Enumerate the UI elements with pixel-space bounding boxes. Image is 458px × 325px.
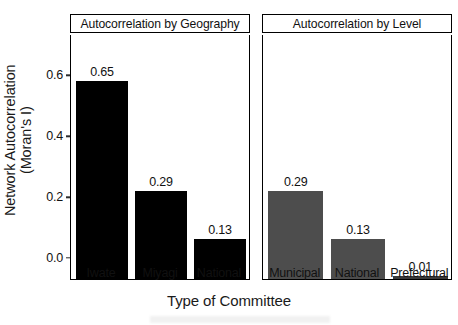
- plot-area-level: 0.290.130.01: [262, 35, 452, 280]
- chart-figure: Network Autocorrelation (Moran's I) 0.00…: [0, 0, 458, 325]
- y-axis-title: Network Autocorrelation (Moran's I): [0, 0, 36, 280]
- panel-level: Autocorrelation by Level 0.290.130.01: [262, 14, 452, 280]
- x-category-label: Municipal: [269, 266, 320, 280]
- y-axis: 0.00.20.40.6: [36, 0, 70, 325]
- panel-strip-geography: Autocorrelation by Geography: [70, 14, 250, 33]
- bar-value-label: 0.65: [90, 65, 114, 79]
- bar-value-label: 0.13: [208, 223, 232, 237]
- panel-strip-label-geography: Autocorrelation by Geography: [80, 17, 239, 31]
- panel-geography: Autocorrelation by Geography 0.650.290.1…: [70, 14, 250, 280]
- y-axis-title-line2: (Moran's I): [18, 64, 34, 216]
- bar-value-label: 0.29: [149, 175, 173, 189]
- panel-strip-level: Autocorrelation by Level: [262, 14, 452, 33]
- x-category-label: Iwate: [87, 266, 116, 280]
- y-tick-label: 0.4: [46, 129, 63, 143]
- x-category-label: Prefectural: [390, 266, 448, 280]
- scan-artifact: [150, 316, 330, 323]
- bar: [76, 81, 128, 279]
- y-tick-label: 0.0: [46, 251, 63, 265]
- y-tick-label: 0.2: [46, 190, 63, 204]
- x-axis-title: Type of Committee: [0, 292, 458, 309]
- bar-value-label: 0.29: [284, 175, 308, 189]
- panel-strip-label-level: Autocorrelation by Level: [293, 17, 421, 31]
- x-category-label: National: [335, 266, 379, 280]
- plot-area-geography: 0.650.290.13: [70, 35, 250, 280]
- bar-value-label: 0.13: [346, 223, 370, 237]
- x-category-label: National: [197, 266, 241, 280]
- y-tick-label: 0.6: [46, 68, 63, 82]
- x-category-label: Miyagi: [143, 266, 178, 280]
- y-axis-title-line1: Network Autocorrelation: [2, 64, 18, 216]
